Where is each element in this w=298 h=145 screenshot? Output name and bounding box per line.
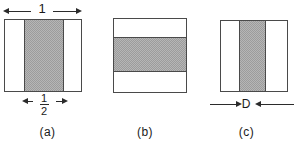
- panel-b: (b): [95, 0, 195, 145]
- fraction-denominator: 2: [34, 106, 54, 116]
- label-outer-width: 1: [31, 1, 53, 16]
- panel-a: 1 1 2 (a): [0, 0, 95, 145]
- panel-c: D (c): [195, 0, 298, 145]
- panel-caption-a: (a): [0, 125, 95, 139]
- d-dimension-line-left: [210, 104, 236, 105]
- band-width-line-left: [27, 101, 33, 102]
- d-dimension-line-right: [261, 104, 294, 105]
- label-d: D: [241, 97, 251, 111]
- panel-caption-b: (b): [95, 125, 195, 139]
- shaded-band-c: [239, 21, 266, 91]
- width-dimension-line-right: [53, 11, 76, 12]
- width-dimension-line-left: [9, 11, 31, 12]
- label-band-width-fraction: 1 2: [34, 93, 54, 116]
- panel-caption-c: (c): [195, 125, 298, 139]
- figure-container: 1 1 2 (a) (b) D (c): [0, 0, 298, 145]
- shaded-band-a: [24, 20, 64, 91]
- shaded-band-b: [114, 37, 186, 72]
- band-width-arrow-right-icon: [62, 98, 68, 104]
- width-arrow-right-icon: [76, 8, 82, 14]
- fraction-numerator: 1: [34, 93, 54, 103]
